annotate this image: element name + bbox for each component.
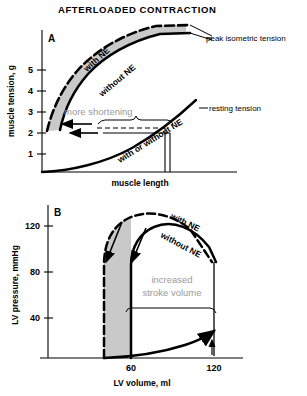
annotation-peak-isometric-tension: peak isometric tension	[206, 34, 286, 43]
annotation-increased-line1: increased	[151, 274, 192, 285]
panel-a-y-axis-label: muscle tension, g	[6, 65, 16, 137]
panel-a-letter: A	[48, 33, 55, 44]
annotation-more-shortening: more shortening	[64, 106, 133, 117]
panel-b-xtick-60: 60	[126, 363, 136, 373]
panel-a-ytick-2: 2	[28, 128, 33, 138]
panel-b-y-axis-label: LV pressure, mmHg	[10, 245, 20, 325]
figure-title: AFTERLOADED CONTRACTION	[58, 4, 216, 15]
panel-b-ytick-40: 40	[30, 313, 40, 323]
panel-b-x-axis-label: LV volume, ml	[114, 378, 171, 388]
panel-a-x-axis-label: muscle length	[111, 178, 168, 188]
panel-a-ytick-5: 5	[28, 65, 33, 75]
panel-b-ytick-80: 80	[30, 267, 40, 277]
figure-afterloaded-contraction: AFTERLOADED CONTRACTION 1 2 3 4 5 A musc…	[0, 0, 307, 396]
panel-b-xtick-120: 120	[206, 363, 221, 373]
panel-b-ytick-120: 120	[25, 221, 40, 231]
panel-a-ytick-3: 3	[28, 107, 33, 117]
panel-a-ytick-1: 1	[28, 149, 33, 159]
figure-background	[0, 0, 307, 396]
annotation-increased-line2: stroke volume	[142, 287, 201, 298]
annotation-resting-tension: resting tension	[209, 104, 261, 113]
panel-a-ytick-4: 4	[28, 86, 33, 96]
panel-b-letter: B	[54, 207, 61, 218]
